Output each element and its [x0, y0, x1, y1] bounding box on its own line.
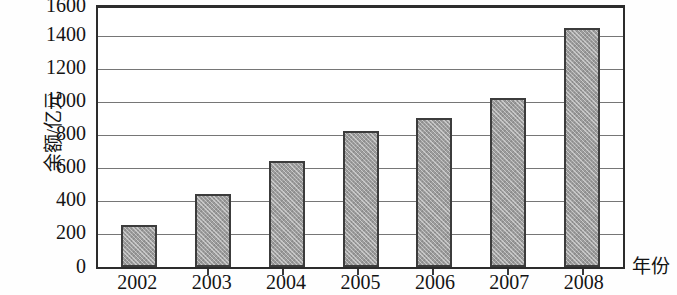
bar-2008 [564, 28, 600, 267]
bar-2004 [269, 161, 305, 267]
y-tick-label: 1000 [46, 90, 86, 110]
y-tick-label: 600 [56, 156, 86, 176]
x-tick-label: 2008 [547, 270, 621, 295]
x-tick-label: 2003 [174, 270, 248, 295]
plot-area [96, 5, 625, 269]
bar-slot [102, 8, 176, 267]
bar-2007 [490, 98, 526, 267]
bar-2006 [416, 118, 452, 268]
bar-slot [176, 8, 250, 267]
x-tick-label: 2007 [472, 270, 546, 295]
x-axis-tick-labels: 2002 2003 2004 2005 2006 2007 2008 [96, 270, 625, 295]
y-tick-label: 1600 [46, 0, 86, 15]
y-tick-label: 0 [76, 256, 86, 276]
bar-2005 [343, 131, 379, 268]
bar-slot [397, 8, 471, 267]
x-tick-label: 2004 [249, 270, 323, 295]
x-tick-label: 2006 [398, 270, 472, 295]
bar-slot [324, 8, 398, 267]
y-tick-label: 1200 [46, 57, 86, 77]
x-axis-title: 年份 [632, 256, 670, 278]
bar-group [98, 8, 623, 267]
y-tick-label: 400 [56, 189, 86, 209]
bar-slot [545, 8, 619, 267]
bar-2003 [195, 194, 231, 267]
y-tick-label: 200 [56, 222, 86, 242]
y-tick-label: 1400 [46, 24, 86, 44]
bar-slot [471, 8, 545, 267]
bar-chart-figure: 余额/亿元 1600 1400 1200 1000 800 600 400 20… [0, 0, 677, 295]
y-axis-tick-labels: 1600 1400 1200 1000 800 600 400 200 0 [20, 0, 90, 295]
bar-slot [250, 8, 324, 267]
x-tick-label: 2005 [323, 270, 397, 295]
x-tick-label: 2002 [100, 270, 174, 295]
bar-2002 [121, 225, 157, 267]
y-tick-label: 800 [56, 123, 86, 143]
